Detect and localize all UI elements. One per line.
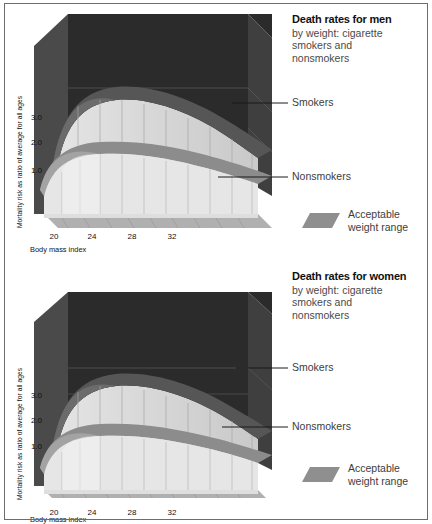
y-tick-3: 3.0 <box>22 113 42 122</box>
callout-smokers: Smokers <box>292 96 333 108</box>
title-main: Death rates for women <box>292 270 424 283</box>
legend-label-line1: Acceptable <box>348 208 400 221</box>
panel-title-men: Death rates for men by weight: cigarette… <box>292 13 424 64</box>
callout-nonsmokers: Nonsmokers <box>292 170 351 182</box>
chart-panel-men: Death rates for men by weight: cigarette… <box>0 0 432 262</box>
legend-label-line2: weight range <box>348 475 408 488</box>
title-sub-line-1: by weight: cigarette <box>292 27 424 39</box>
axis-x-title: Body mass index <box>30 245 86 254</box>
axis-y-title: Mortality risk as ratio of average for a… <box>16 368 23 500</box>
acceptable-range-strip <box>62 154 100 214</box>
chart-panel-women: Death rates for women by weight: cigaret… <box>0 262 432 524</box>
y-tick-1: 1.0 <box>22 442 42 451</box>
y-tick-2: 2.0 <box>22 138 42 147</box>
title-sub-line-2: smokers and <box>292 296 424 308</box>
title-sub-line-2: smokers and <box>292 39 424 51</box>
axis-x-title: Body mass index <box>30 515 86 524</box>
x-tick-32: 32 <box>162 508 182 517</box>
callout-nonsmokers: Nonsmokers <box>292 420 351 432</box>
title-sub-line-1: by weight: cigarette <box>292 284 424 296</box>
callout-smokers: Smokers <box>292 361 333 373</box>
legend-label-line1: Acceptable <box>348 462 400 475</box>
title-main: Death rates for men <box>292 13 424 26</box>
floor-top-edge <box>44 214 258 218</box>
x-tick-28: 28 <box>122 232 142 241</box>
legend-swatch <box>302 213 340 228</box>
title-sub-line-3: nonsmokers <box>292 52 424 64</box>
y-tick-2: 2.0 <box>22 416 42 425</box>
y-tick-3: 3.0 <box>22 391 42 400</box>
x-tick-24: 24 <box>82 232 102 241</box>
legend-swatch <box>302 467 340 482</box>
figure-root: Death rates for men by weight: cigarette… <box>0 0 432 524</box>
legend-label-line2: weight range <box>348 221 408 234</box>
x-tick-20: 20 <box>44 232 64 241</box>
y-tick-1: 1.0 <box>22 166 42 175</box>
floor-top-edge <box>44 490 258 494</box>
panel-title-women: Death rates for women by weight: cigaret… <box>292 270 424 321</box>
title-sub-line-3: nonsmokers <box>292 309 424 321</box>
x-tick-32: 32 <box>162 232 182 241</box>
x-tick-28: 28 <box>122 508 142 517</box>
acceptable-range-strip <box>62 436 100 490</box>
